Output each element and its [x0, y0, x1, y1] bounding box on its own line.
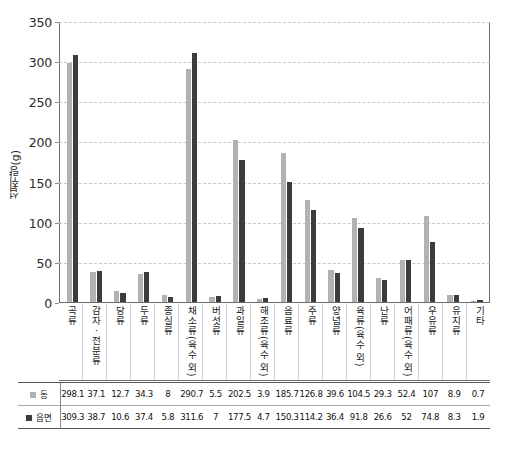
x-category-label: 곡류: [59, 303, 83, 380]
bar: [447, 295, 452, 302]
table-cell-value: 290.7: [180, 383, 204, 406]
x-category-label: 당류: [107, 303, 131, 380]
x-category-label: 육류(육수 외): [347, 303, 371, 380]
table-row: 동298.137.112.734.38290.75.5202.53.9185.7…: [18, 383, 490, 406]
bar: [424, 216, 429, 301]
legend-swatch-icon: [30, 392, 36, 398]
table-cell-value: 5.8: [156, 406, 180, 429]
x-category-label: 버섯류: [203, 303, 227, 380]
x-category-text: 음료류: [281, 306, 291, 380]
x-category-text: 채소류(육수 외): [185, 306, 195, 380]
bar: [263, 298, 268, 302]
y-tick-label: 100: [29, 215, 52, 230]
bar-group: [441, 22, 465, 302]
bar-group: [465, 22, 489, 302]
table-cell-value: 8.3: [442, 406, 466, 429]
x-category-label: 음료류: [275, 303, 299, 380]
table-cell-value: 8: [156, 383, 180, 406]
x-category-label: 감자ㆍ전분류: [83, 303, 107, 380]
table-cell-value: 126.8: [299, 383, 323, 406]
x-category-label: 해조류(육수 외): [251, 303, 275, 380]
table-cell-value: 202.5: [228, 383, 252, 406]
table-cell-value: 298.1: [61, 383, 85, 406]
table-cell-value: 311.6: [180, 406, 204, 429]
bar-group: [370, 22, 394, 302]
bars-layer: [60, 22, 488, 302]
bar: [192, 53, 197, 302]
x-category-label: 종실류: [155, 303, 179, 380]
bar-group: [108, 22, 132, 302]
x-category-text: 과일류: [233, 306, 243, 380]
table-cell-value: 37.1: [84, 383, 108, 406]
y-tick-label: 200: [29, 135, 52, 150]
y-tick-label: 0: [44, 296, 52, 311]
table-cell-value: 8.9: [442, 383, 466, 406]
legend-label: 동: [40, 390, 48, 400]
y-tick-label: 50: [36, 255, 52, 270]
y-tick-label: 250: [29, 95, 52, 110]
table-cell-value: 74.8: [418, 406, 442, 429]
y-tick-mark: [55, 223, 59, 224]
table-cell-value: 7: [204, 406, 228, 429]
x-category-text: 당류: [113, 306, 123, 380]
table-cell-value: 309.3: [61, 406, 85, 429]
bar: [209, 297, 214, 301]
x-category-label: 유지류: [443, 303, 467, 380]
y-tick-mark: [55, 142, 59, 143]
x-category-text: 육류(육수 외): [353, 306, 363, 380]
table-cell-value: 91.8: [347, 406, 371, 429]
table-cell-value: 52: [395, 406, 419, 429]
x-category-text: 버섯류: [209, 306, 219, 380]
bar-group: [156, 22, 180, 302]
table-cell-value: 4.7: [251, 406, 275, 429]
bar: [216, 296, 221, 302]
bar-group: [417, 22, 441, 302]
x-category-text: 해조류(육수 외): [257, 306, 267, 380]
x-category-text: 곡류: [65, 306, 75, 380]
table-cell-value: 29.3: [371, 383, 395, 406]
bar: [477, 300, 482, 302]
bar-group: [346, 22, 370, 302]
x-category-text: 종실류: [161, 306, 171, 380]
bar: [328, 270, 333, 302]
x-category-text: 난류: [377, 306, 387, 380]
bar: [352, 218, 357, 301]
x-category-label: 주류: [299, 303, 323, 380]
bar: [138, 274, 143, 301]
y-tick-label: 150: [29, 175, 52, 190]
x-category-label: 양념류: [323, 303, 347, 380]
bar: [90, 272, 95, 302]
x-category-text: 양념류: [329, 306, 339, 380]
table-cell-value: 150.3: [275, 406, 299, 429]
x-axis-category-labels: 곡류감자ㆍ전분류당류두류종실류채소류(육수 외)버섯류과일류해조류(육수 외)음…: [59, 303, 490, 381]
x-category-text: 감자ㆍ전분류: [89, 306, 99, 380]
bar: [97, 271, 102, 302]
bar: [281, 153, 286, 301]
x-category-label: 어패류(육수 외): [395, 303, 419, 380]
table-cell-value: 37.4: [132, 406, 156, 429]
x-category-text: 기타: [473, 306, 483, 380]
x-category-label: 과일류: [227, 303, 251, 380]
bar: [73, 55, 78, 302]
figure-caption: [88, 434, 418, 448]
bar-group: [132, 22, 156, 302]
legend-cell: 읍면: [18, 406, 61, 429]
bar-group: [84, 22, 108, 302]
table-cell-value: 5.5: [204, 383, 228, 406]
bar: [257, 299, 262, 302]
x-category-text: 유지류: [449, 306, 459, 380]
bar: [358, 228, 363, 301]
y-tick-mark: [55, 102, 59, 103]
bar: [144, 272, 149, 302]
x-category-text: 우유류: [425, 306, 435, 380]
y-tick-mark: [55, 62, 59, 63]
table-cell-value: 185.7: [275, 383, 299, 406]
bar: [114, 291, 119, 301]
bar: [67, 63, 72, 301]
bar: [454, 295, 459, 302]
chart-page: 섭취량(g) 050100150200250300350 곡류감자ㆍ전분류당류두…: [0, 0, 507, 449]
table-row: 읍면309.338.710.637.45.8311.67177.54.7150.…: [18, 406, 490, 429]
table-cell-value: 38.7: [84, 406, 108, 429]
table-cell-value: 177.5: [228, 406, 252, 429]
bar: [233, 140, 238, 302]
